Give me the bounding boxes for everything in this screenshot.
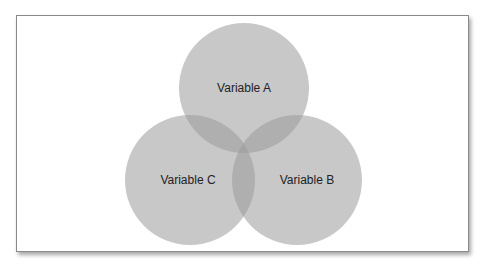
venn-diagram: Variable A Variable B Variable C [0, 0, 487, 269]
label-variable-b: Variable B [280, 173, 334, 187]
label-variable-a: Variable A [217, 81, 271, 95]
label-variable-c: Variable C [160, 173, 215, 187]
